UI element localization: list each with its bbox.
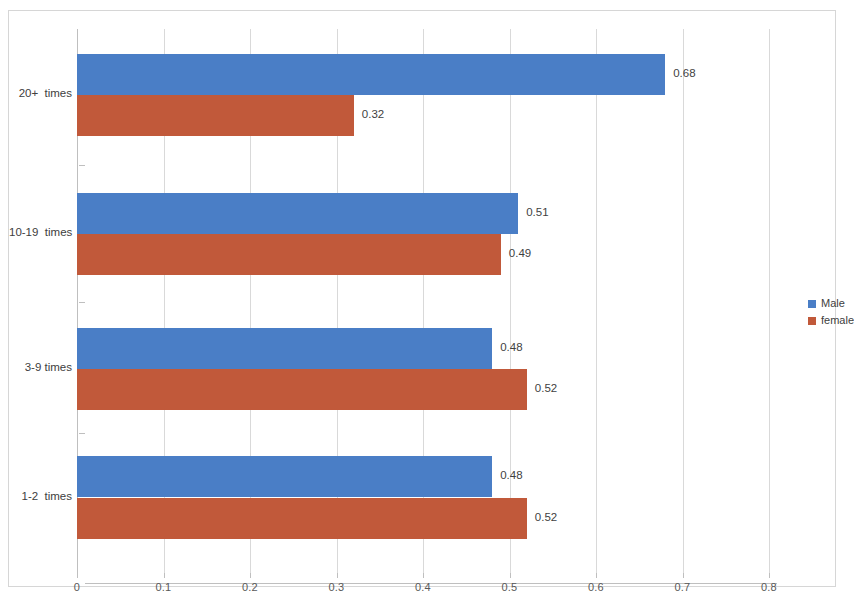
data-label: 0.49 (509, 247, 531, 259)
legend-swatch-icon (808, 300, 816, 308)
legend-swatch-icon (808, 317, 816, 325)
bar-female-1[interactable] (77, 234, 501, 275)
tick-mark-0.7 (683, 573, 684, 578)
x-tick-label: 0.1 (144, 581, 184, 593)
x-tick-label: 0.6 (576, 581, 616, 593)
bar-female-0[interactable] (77, 95, 354, 136)
data-label: 0.48 (500, 469, 522, 481)
bar-male-3[interactable] (77, 456, 492, 497)
tick-mark-0.1 (164, 573, 165, 578)
data-label: 0.68 (673, 67, 695, 79)
category-label: 10-19 times (9, 226, 81, 238)
legend-item-female[interactable]: female (808, 312, 854, 329)
x-tick-label: 0.2 (230, 581, 270, 593)
tick-mark-0.6 (596, 573, 597, 578)
tick-mark-0 (77, 573, 78, 578)
gridline-0.8 (769, 29, 770, 573)
category-tick (79, 165, 85, 166)
data-label: 0.52 (535, 382, 557, 394)
bar-male-0[interactable] (77, 54, 665, 95)
tick-mark-0.8 (769, 573, 770, 578)
category-tick (79, 302, 85, 303)
x-tick-label: 0.4 (403, 581, 443, 593)
data-label: 0.32 (362, 108, 384, 120)
x-tick-label: 0 (57, 581, 97, 593)
category-label: 1-2 times (9, 490, 81, 502)
gridline-0.6 (596, 29, 597, 573)
x-tick-label: 0.5 (490, 581, 530, 593)
data-label: 0.51 (526, 206, 548, 218)
tick-mark-0.4 (423, 573, 424, 578)
category-label: 3-9 times (9, 361, 81, 373)
tick-mark-0.2 (250, 573, 251, 578)
legend-label: Male (821, 298, 845, 309)
x-tick-label: 0.7 (663, 581, 703, 593)
legend-item-male[interactable]: Male (808, 295, 854, 312)
legend-label: female (821, 315, 854, 326)
category-tick (79, 433, 85, 434)
bar-female-2[interactable] (77, 369, 527, 410)
gridline-0.5 (510, 29, 511, 573)
gridline-0.7 (683, 29, 684, 573)
bar-female-3[interactable] (77, 498, 527, 539)
chart-container: 00.10.20.30.40.50.60.70.8 20+ times10-19… (8, 10, 836, 587)
tick-mark-0.3 (337, 573, 338, 578)
data-label: 0.52 (535, 511, 557, 523)
tick-mark-0.5 (510, 573, 511, 578)
x-tick-label: 0.3 (317, 581, 357, 593)
chart-legend: Malefemale (808, 295, 854, 329)
bar-male-1[interactable] (77, 193, 518, 234)
bar-male-2[interactable] (77, 328, 492, 369)
data-label: 0.48 (500, 341, 522, 353)
x-tick-label: 0.8 (749, 581, 789, 593)
category-label: 20+ times (9, 87, 81, 99)
